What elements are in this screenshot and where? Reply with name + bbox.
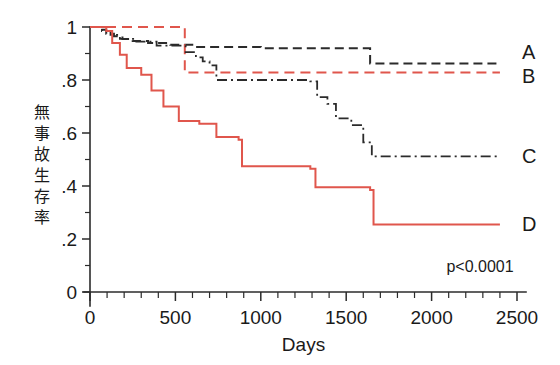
- x-axis-label: Days: [282, 334, 325, 355]
- y-axis-label-char: 無: [34, 103, 50, 122]
- y-axis-label-char: 存: [34, 187, 50, 206]
- x-tick-label: 2500: [496, 307, 538, 328]
- x-tick-label: 1000: [240, 307, 282, 328]
- x-tick-label: 1500: [325, 307, 367, 328]
- series-label-d: D: [522, 213, 536, 235]
- y-tick-label: 0: [66, 282, 77, 303]
- y-tick-label: .8: [61, 70, 77, 91]
- y-tick-label: .6: [61, 123, 77, 144]
- y-axis-label-char: 故: [34, 145, 50, 164]
- y-axis-label-char: 事: [34, 124, 50, 143]
- y-tick-label: .2: [61, 229, 77, 250]
- p-value-annotation: p<0.0001: [446, 258, 513, 275]
- series-label-b: B: [522, 65, 535, 87]
- chart-annotations: p<0.0001: [446, 258, 513, 275]
- series-label-c: C: [522, 145, 536, 167]
- x-tick-label: 0: [85, 307, 96, 328]
- x-tick-label: 500: [160, 307, 192, 328]
- series-label-a: A: [522, 41, 536, 63]
- y-axis-label-char: 生: [34, 166, 50, 185]
- x-tick-label: 2000: [410, 307, 452, 328]
- y-axis-label-char: 率: [34, 208, 50, 227]
- chart-figure: 無事故生存率 0.2.4.6.81 05001000150020002500 A…: [0, 0, 560, 365]
- y-tick-label: .4: [61, 176, 77, 197]
- y-tick-label: 1: [66, 17, 77, 38]
- kaplan-meier-chart: 無事故生存率 0.2.4.6.81 05001000150020002500 A…: [0, 0, 560, 365]
